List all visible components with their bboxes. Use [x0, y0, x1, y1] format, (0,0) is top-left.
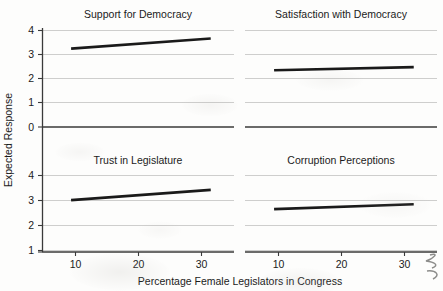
ytick-label-bottom-3: 3 [28, 194, 34, 206]
ytick-label-top-4: 4 [28, 24, 34, 36]
ytick-label-bottom-2: 2 [28, 219, 34, 231]
xtick-label-left-20: 20 [133, 258, 145, 270]
xtick-label-left-10: 10 [70, 258, 82, 270]
xtick-label-left-30: 30 [196, 258, 208, 270]
series-line-corruption-perceptions [274, 204, 414, 209]
ytick-label-top-1: 1 [28, 96, 34, 108]
y-tick-labels-top: 4 3 2 1 0 [28, 24, 34, 133]
series-line-satisfaction-with-democracy [274, 67, 414, 70]
y-axis-ticks [38, 31, 42, 253]
xtick-label-right-10: 10 [273, 258, 285, 270]
panel-title-corruption-perceptions: Corruption Perceptions [287, 154, 394, 166]
panel-title-trust-in-legislature: Trust in Legislature [94, 154, 183, 166]
xtick-label-right-20: 20 [336, 258, 348, 270]
x-axis-title: Percentage Female Legislators in Congres… [138, 275, 342, 287]
series-line-trust-in-legislature [71, 190, 211, 200]
y-axis-title: Expected Response [2, 93, 14, 187]
axis-spines [42, 28, 437, 252]
xtick-label-right-30: 30 [399, 258, 411, 270]
scan-pen-squiggle-icon [426, 254, 437, 279]
faceted-line-chart: 4 3 2 1 0 4 3 2 1 0 Support for Democrac… [0, 0, 443, 291]
figure-container: 4 3 2 1 0 4 3 2 1 0 Support for Democrac… [0, 0, 443, 291]
data-series-lines [71, 38, 414, 209]
y-tick-labels-bottom: 4 3 2 1 0 [28, 169, 34, 258]
series-line-support-for-democracy [71, 38, 211, 48]
ytick-label-bottom-4: 4 [28, 169, 34, 181]
panel-title-satisfaction-with-democracy: Satisfaction with Democracy [275, 8, 408, 20]
ytick-label-top-2: 2 [28, 72, 34, 84]
gridlines-top-row [42, 31, 437, 103]
gridlines-bottom-row [42, 176, 437, 251]
x-tick-labels: 10 20 30 10 20 30 [70, 258, 411, 270]
ytick-label-top-0: 0 [28, 121, 34, 133]
ytick-label-top-3: 3 [28, 48, 34, 60]
panel-title-support-for-democracy: Support for Democracy [84, 8, 193, 20]
